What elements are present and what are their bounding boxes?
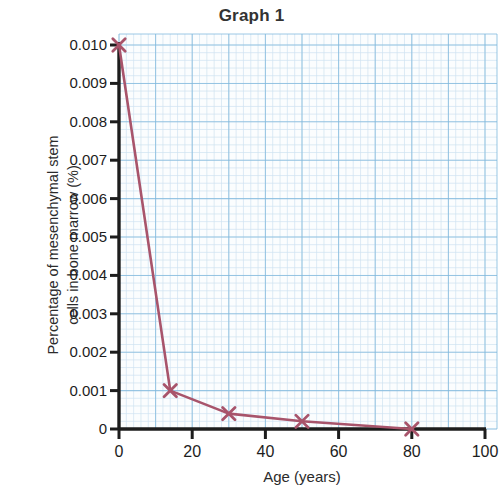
y-tick-label: 0.008 [39,113,107,130]
y-tick-label: 0.004 [39,266,107,283]
y-tick-label: 0.002 [39,343,107,360]
grid-minor-lines [119,34,497,429]
y-tick-label: 0.009 [39,74,107,91]
x-tick-label: 40 [235,443,295,461]
y-tick-label: 0.010 [39,36,107,53]
x-tick-label: 100 [455,443,503,461]
y-tick-label: 0.005 [39,228,107,245]
y-tick-label: 0.001 [39,382,107,399]
x-tick-label: 80 [382,443,442,461]
x-tick-label: 60 [309,443,369,461]
chart-figure: Graph 1 Percentage of mesenchymal stem c… [0,0,503,495]
x-tick-label: 20 [162,443,222,461]
y-tick-label: 0 [39,420,107,437]
y-tick-label: 0.003 [39,305,107,322]
y-tick-label: 0.007 [39,151,107,168]
y-tick-label: 0.006 [39,190,107,207]
x-tick-label: 0 [89,443,149,461]
